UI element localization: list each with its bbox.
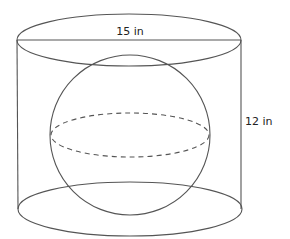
cylinder-left-side — [17, 40, 18, 209]
diameter-label: 15 in — [116, 25, 144, 38]
sphere-equator-dashed — [51, 113, 209, 157]
cylinder-sphere-diagram: 15 in 12 in — [0, 0, 290, 239]
cylinder-bottom-ellipse — [18, 182, 242, 236]
sphere-outline — [50, 55, 210, 215]
height-label: 12 in — [245, 115, 273, 128]
